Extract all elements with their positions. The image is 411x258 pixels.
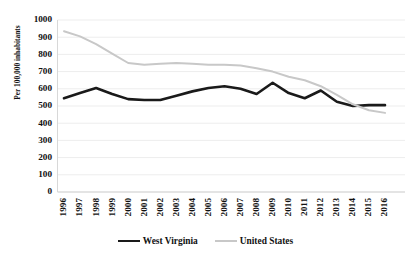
legend-label-west-virginia: West Virginia [143, 236, 198, 246]
plot-area [0, 0, 411, 258]
legend-item-west-virginia: West Virginia [118, 236, 198, 246]
legend-item-united-states: United States [215, 236, 293, 246]
legend-swatch-west-virginia [118, 240, 140, 242]
chart-legend: West Virginia United States [0, 236, 411, 246]
legend-label-united-states: United States [240, 236, 293, 246]
line-chart: Per 100,000 inhabitants 1000900800700600… [0, 0, 411, 258]
legend-swatch-united-states [215, 240, 237, 242]
